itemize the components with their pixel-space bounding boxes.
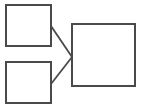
connector-top-left-box-to-right-box — [51, 26, 72, 57]
bottom-left-box — [6, 62, 51, 103]
edges — [51, 26, 72, 84]
top-left-box — [6, 5, 51, 46]
diagram-canvas — [0, 0, 141, 108]
right-box — [72, 24, 135, 86]
connector-bottom-left-box-to-right-box — [51, 57, 72, 84]
